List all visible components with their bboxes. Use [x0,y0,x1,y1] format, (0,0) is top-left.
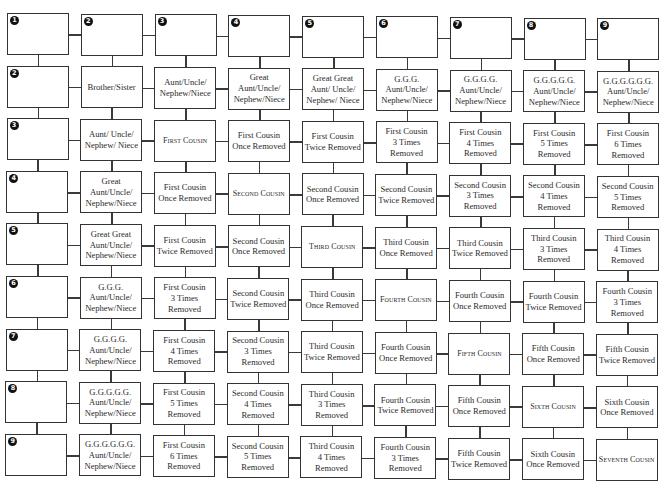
connector-horizontal [141,193,155,195]
relationship-label: Fourth Cousin Once Removed [453,290,506,311]
connector-horizontal [68,87,82,89]
relationship-label: First Cousin 5 Times Removed [533,128,575,160]
relationship-label: First Cousin 6 Times Removed [607,128,649,160]
relationship-cell-r8-c7: Fifth Cousin Once Removed [448,385,510,427]
relationship-cell-r2-c8: G.G.G.G.G. Aunt/Uncle/ Nephew/Niece [523,70,585,112]
relationship-cell-r5-c8: Third Cousin 3 Times Removed [523,228,585,270]
relationship-cell-r5-c9: Third Cousin 4 Times Removed [597,229,659,271]
relationship-label: First Cousin 5 Times Removed [163,387,205,419]
relationship-cell-r5-c6: Third Cousin Once Removed [375,227,437,269]
generation-number-badge: 5 [305,19,314,28]
connector-horizontal [436,301,450,303]
connector-horizontal [215,299,229,301]
relationship-cell-r1-c4: 4 [228,15,290,57]
connector-horizontal [363,37,377,39]
relationship-cell-r9-c8: Sixth Cousin Once Removed [522,438,584,480]
relationship-cell-r6-c7: Fourth Cousin Once Removed [449,280,511,322]
connector-horizontal [362,353,376,355]
relationship-cell-r2-c5: Great Great Aunt/ Uncle/ Nephew/ Niece [302,68,364,110]
connector-horizontal [288,352,302,354]
relationship-label: Third Cousin Once Removed [305,289,358,310]
relationship-label: First Cousin Once Removed [158,182,211,203]
relationship-label: First Cousin [163,136,207,146]
connector-horizontal [583,407,597,409]
relationship-cell-r1-c8: 8 [524,18,586,60]
relationship-label: Great Great Aunt/Uncle/ Nephew/Niece [85,229,136,261]
connector-horizontal [437,38,451,40]
relationship-cell-r6-c2: G.G.G. Aunt/Uncle/ Nephew/Niece [80,277,142,319]
relationship-label: Sixth Cousin Once Removed [600,397,653,418]
relationship-cell-r3-c6: First Cousin 3 Times Removed [376,121,438,163]
relationship-label: Fifth Cousin Twice Removed [599,344,655,365]
relationship-cell-r5-c1: 5 [6,223,68,265]
connector-horizontal [289,247,303,249]
relationship-cell-r3-c7: First Cousin 4 Times Removed [449,122,511,164]
connector-horizontal [289,141,303,143]
relationship-chart: 1234567892Brother/SisterAunt/Uncle/ Neph… [0,0,665,486]
relationship-label: Second Cousin 4 Times Removed [528,180,580,212]
connector-horizontal [67,297,81,299]
connector-horizontal [68,140,82,142]
relationship-cell-r2-c9: G.G.G.G.G.G. Aunt/Uncle/ Nephew/Niece [597,71,659,113]
relationship-label: Fifth Cousin Once Removed [527,343,580,364]
relationship-cell-r3-c1: 3 [7,118,69,160]
connector-horizontal [510,301,524,303]
relationship-cell-r7-c6: Fourth Cousin Once Removed [375,332,437,374]
generation-number-badge: 4 [9,174,18,183]
relationship-cell-r9-c6: Fourth Cousin 3 Times Removed [374,437,436,479]
relationship-label: G.G.G. Aunt/Uncle/ Nephew/Niece [85,282,136,314]
connector-horizontal [140,403,154,405]
connector-horizontal [583,354,597,356]
relationship-label: First Cousin Twice Removed [157,235,213,256]
relationship-cell-r3-c9: First Cousin 6 Times Removed [597,123,659,165]
generation-number-badge: 7 [9,332,18,341]
relationship-cell-r5-c5: Third Cousin [301,226,363,268]
connector-horizontal [362,300,376,302]
relationship-cell-r3-c8: First Cousin 5 Times Removed [523,123,585,165]
connector-horizontal [436,353,450,355]
relationship-cell-r5-c2: Great Great Aunt/Uncle/ Nephew/Niece [80,224,142,266]
relationship-label: Aunt/Uncle/ Nephew/Niece [160,77,211,98]
connector-horizontal [584,91,598,93]
relationship-label: Third Cousin Twice Removed [304,341,360,362]
connector-horizontal [288,457,302,459]
relationship-cell-r4-c5: Second Cousin Once Removed [302,173,364,215]
relationship-label: Brother/Sister [87,82,135,93]
connector-horizontal [511,91,525,93]
relationship-cell-r4-c9: Second Cousin 5 Times Removed [597,176,659,218]
connector-horizontal [68,34,82,36]
relationship-label: G.G.G.G. Aunt/Uncle/ Nephew/Niece [455,74,506,106]
relationship-label: G.G.G.G.G.G. Aunt/Uncle/ Nephew/Niece [85,439,136,471]
connector-horizontal [66,403,80,405]
relationship-label: Second Cousin 4 Times Removed [232,388,284,420]
connector-horizontal [435,406,449,408]
relationship-label: Fifth Cousin Twice Removed [451,448,507,469]
connector-horizontal [435,458,449,460]
relationship-label: Second Cousin [233,189,285,199]
connector-horizontal [214,404,228,406]
connector-horizontal [142,35,156,37]
relationship-cell-r1-c5: 5 [302,16,364,58]
relationship-label: Fourth Cousin 3 Times Removed [603,286,652,318]
connector-horizontal [362,405,376,407]
relationship-cell-r4-c2: Great Aunt/Uncle/ Nephew/Niece [80,171,142,213]
relationship-label: Third Cousin 4 Times Removed [605,233,651,265]
connector-horizontal [289,89,303,91]
relationship-label: G.G.G. Aunt/Uncle/ Nephew/Niece [381,74,432,106]
relationship-cell-r7-c4: Second Cousin 3 Times Removed [227,331,289,373]
generation-number-badge: 8 [527,21,536,30]
relationship-label: Fourth Cousin 3 Times Removed [381,442,430,474]
relationship-cell-r7-c9: Fifth Cousin Twice Removed [596,334,658,376]
connector-horizontal [215,246,229,248]
relationship-label: Sixth Cousin [530,402,576,412]
connector-horizontal [288,404,302,406]
relationship-label: Second Cousin 5 Times Removed [232,441,284,473]
relationship-cell-r1-c9: 9 [597,18,659,60]
relationship-label: Fifth Cousin [457,349,502,359]
relationship-cell-r6-c6: Fourth Cousin [375,279,437,321]
connector-horizontal [289,194,303,196]
relationship-label: Second Cousin 3 Times Removed [232,335,284,367]
connector-horizontal [510,143,524,145]
relationship-cell-r8-c9: Sixth Cousin Once Removed [596,386,658,428]
relationship-cell-r8-c4: Second Cousin 4 Times Removed [227,383,289,425]
